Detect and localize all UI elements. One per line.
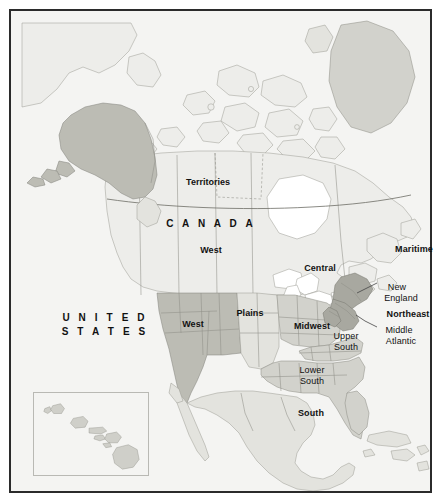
island-hawaii [113, 445, 140, 469]
island-oahu [70, 416, 88, 428]
island-lanai [94, 435, 106, 441]
map-frame: .ln { fill:none; stroke:#8f8f88; stroke-… [9, 9, 432, 493]
island-molokai [89, 427, 107, 434]
map-figure: .ln { fill:none; stroke:#8f8f88; stroke-… [0, 0, 443, 504]
hawaii-inset-box [33, 392, 149, 476]
island-maui [105, 432, 122, 443]
island-niihau [44, 407, 52, 414]
island-kahoolawe [103, 443, 112, 448]
hawaii-islands [34, 393, 148, 475]
island-kauai [51, 404, 65, 414]
